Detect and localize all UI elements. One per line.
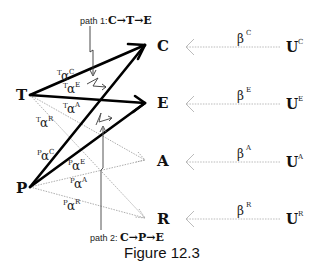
svg-text:α: α xyxy=(67,102,75,116)
arrowhead-A-1 xyxy=(136,152,145,162)
svg-text:C→P→E: C→P→E xyxy=(120,231,164,244)
svg-text:α: α xyxy=(67,199,75,213)
svg-text:U: U xyxy=(286,96,298,112)
svg-text:C→T→E: C→T→E xyxy=(108,14,152,27)
path1-zigzag-icon xyxy=(87,78,106,87)
u-E: U E xyxy=(286,95,303,112)
path2-line xyxy=(101,128,103,230)
node-R: R xyxy=(157,210,170,228)
node-T: T xyxy=(16,86,28,104)
figure-12-3-diagram: T P C E A R β C β E β A β R U C U E U A … xyxy=(0,0,316,278)
svg-text:A: A xyxy=(297,153,304,161)
path2-pointer xyxy=(96,113,112,230)
beta-C: β C xyxy=(237,29,251,46)
edge-T-C xyxy=(30,45,145,95)
alpha-T-A: T α A xyxy=(63,101,81,116)
svg-text:C: C xyxy=(246,29,251,37)
svg-text:U: U xyxy=(286,211,298,227)
svg-text:U: U xyxy=(286,154,298,170)
svg-text:E: E xyxy=(75,81,80,89)
u-C: U C xyxy=(286,38,303,55)
svg-text:β: β xyxy=(237,204,244,218)
svg-text:C: C xyxy=(69,68,74,76)
svg-text:α: α xyxy=(61,69,69,83)
svg-text:R: R xyxy=(48,115,54,123)
path1-pointer xyxy=(87,26,106,90)
u-R: U R xyxy=(286,210,304,227)
svg-text:A: A xyxy=(81,176,88,184)
edge-T-E xyxy=(30,95,145,103)
svg-text:E: E xyxy=(246,86,251,94)
path2-label: path 2: C→P→E xyxy=(90,231,164,244)
node-P: P xyxy=(16,179,27,197)
node-C: C xyxy=(157,37,169,55)
alpha-T-E: T α E xyxy=(63,81,80,96)
svg-text:E: E xyxy=(298,95,303,103)
svg-text:α: α xyxy=(41,149,49,163)
path1-label: path 1: C→T→E xyxy=(80,14,152,27)
alpha-P-A: P α A xyxy=(70,176,88,191)
svg-text:E: E xyxy=(80,158,85,166)
svg-text:β: β xyxy=(237,147,244,161)
svg-text:C: C xyxy=(49,148,54,156)
path2-zigzag-icon xyxy=(96,113,112,125)
alpha-T-R: T α R xyxy=(36,115,54,130)
edge-P-R xyxy=(30,187,145,218)
node-A: A xyxy=(156,152,169,170)
svg-text:α: α xyxy=(67,82,75,96)
node-E: E xyxy=(157,94,168,112)
svg-text:R: R xyxy=(298,210,304,218)
svg-text:α: α xyxy=(74,177,82,191)
figure-caption: Figure 12.3 xyxy=(124,244,200,261)
alpha-P-R: P α R xyxy=(63,198,81,213)
u-A: U A xyxy=(286,153,304,170)
svg-text:α: α xyxy=(40,116,48,130)
path1-squiggle-line xyxy=(90,26,93,74)
beta-E: β E xyxy=(237,86,251,103)
svg-text:A: A xyxy=(245,144,252,152)
beta-A: β A xyxy=(237,144,252,161)
svg-text:path 2:: path 2: xyxy=(90,233,118,243)
svg-text:β: β xyxy=(237,89,244,103)
svg-text:α: α xyxy=(72,159,80,173)
alpha-P-E: P α E xyxy=(68,158,85,173)
svg-text:U: U xyxy=(286,39,298,55)
svg-text:β: β xyxy=(237,32,244,46)
svg-text:path 1:: path 1: xyxy=(80,16,108,26)
svg-text:C: C xyxy=(298,38,303,46)
arrowhead-E xyxy=(133,96,145,112)
svg-text:R: R xyxy=(75,198,81,206)
u-arrows xyxy=(186,39,280,227)
svg-text:R: R xyxy=(246,201,252,209)
beta-R: β R xyxy=(237,201,252,218)
svg-text:A: A xyxy=(74,101,81,109)
